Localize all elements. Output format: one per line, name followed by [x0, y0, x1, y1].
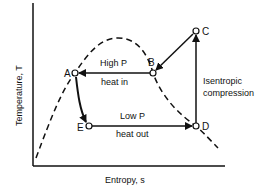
y-axis-label: Temperature, T [14, 65, 24, 126]
point-a [72, 70, 78, 76]
label-a: A [64, 68, 71, 79]
ts-diagram: A B C D E High P heat in Low P heat out … [0, 0, 272, 191]
point-d [193, 123, 199, 129]
process-c-to-b [156, 34, 193, 70]
process-a-to-e [76, 77, 86, 122]
point-b [150, 70, 156, 76]
label-e: E [77, 122, 84, 133]
label-d: D [202, 121, 209, 132]
compression-label-2: compression [203, 88, 254, 98]
heat-in-label: heat in [101, 77, 128, 87]
label-b: B [148, 57, 155, 68]
low-p-label: Low P [120, 111, 145, 121]
x-axis-label: Entropy, s [105, 175, 145, 185]
heat-out-label: heat out [116, 129, 149, 139]
high-p-label: High P [100, 58, 127, 68]
point-c [193, 28, 199, 34]
saturation-dome [36, 38, 218, 158]
label-c: C [202, 26, 209, 37]
compression-label-1: Isentropic [203, 76, 243, 86]
point-e [86, 123, 92, 129]
